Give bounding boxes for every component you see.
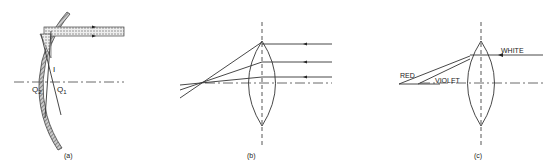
panel-a: I Q2 Q1 (a)	[14, 12, 124, 160]
label-i: I	[53, 65, 55, 74]
label-white: WHITE	[501, 47, 524, 54]
incident-beam	[44, 27, 124, 36]
label-violet: VIOLET	[435, 77, 461, 84]
caption-c: (c)	[474, 152, 482, 160]
label-red: RED	[400, 72, 415, 79]
panel-b: (b)	[180, 22, 332, 160]
panel-c: WHITE RED VIOLET (c)	[399, 22, 543, 160]
refracted-ray	[180, 77, 262, 85]
arrow-icon	[303, 76, 307, 79]
arrow-icon	[303, 61, 307, 64]
arrow-icon	[303, 43, 307, 46]
refracted-ray	[180, 62, 262, 90]
caption-a: (a)	[64, 152, 73, 160]
optics-figure: I Q2 Q1 (a) (b) WHITE RED V	[0, 0, 557, 166]
label-q1: Q1	[57, 85, 67, 95]
caption-b: (b)	[247, 152, 256, 160]
